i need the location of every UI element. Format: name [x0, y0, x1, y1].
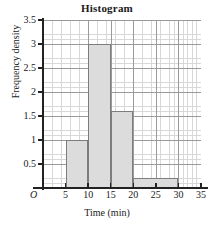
y-axis-tick-label: 1	[0, 135, 36, 145]
histogram-figure: Histogram Frequency density Time (min) 0…	[0, 0, 214, 226]
y-axis-tick-label: 2	[0, 87, 36, 97]
x-axis-tick	[133, 183, 134, 188]
histogram-bar	[66, 140, 89, 188]
y-axis-tick	[38, 115, 43, 116]
x-axis-tick	[178, 183, 179, 188]
x-axis-tick-label: 35	[186, 190, 214, 200]
y-axis-tick-label: 3	[0, 39, 36, 49]
y-axis-tick	[38, 67, 43, 68]
x-axis-tick	[42, 183, 43, 188]
x-axis-tick	[65, 183, 66, 188]
histogram-bar	[111, 111, 134, 188]
chart-title: Histogram	[0, 2, 214, 14]
plot-area	[43, 20, 201, 188]
y-axis-tick	[38, 43, 43, 44]
y-axis-tick-label: 3.5	[0, 15, 36, 25]
x-axis-tick	[155, 183, 156, 188]
y-axis-tick	[38, 91, 43, 92]
x-axis-tick	[200, 183, 201, 188]
y-axis-tick-label: 2.5	[0, 63, 36, 73]
x-axis-tick	[110, 183, 111, 188]
y-axis-tick-label: 1.5	[0, 111, 36, 121]
y-axis-tick	[38, 139, 43, 140]
origin-label: O	[30, 189, 37, 200]
y-axis-tick-label: 0.5	[0, 159, 36, 169]
y-axis-tick	[38, 163, 43, 164]
x-axis-tick	[87, 183, 88, 188]
y-axis-tick	[38, 19, 43, 20]
x-axis-label: Time (min)	[0, 207, 214, 218]
histogram-bar	[88, 44, 111, 188]
